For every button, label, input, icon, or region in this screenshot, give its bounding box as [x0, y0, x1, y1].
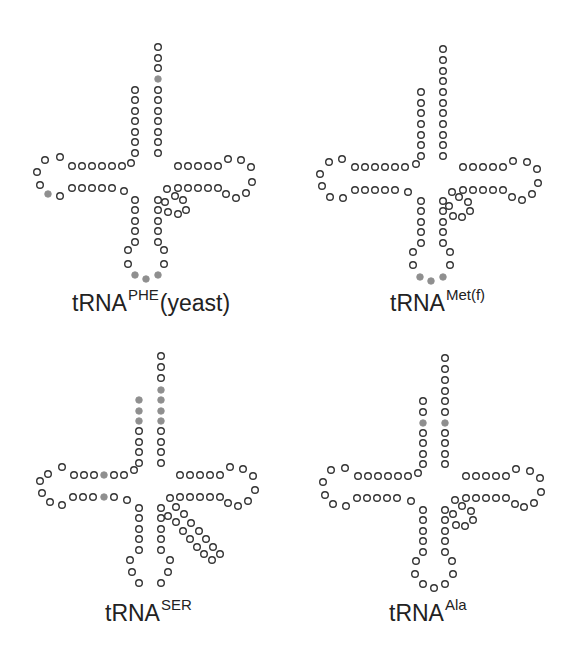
- nucleotide: [440, 198, 447, 205]
- nucleotide: [89, 185, 96, 192]
- nucleotide: [535, 180, 542, 187]
- nucleotide: [531, 500, 538, 507]
- nucleotide: [70, 494, 77, 501]
- trna-ala-structure: [320, 355, 545, 592]
- label-trna-phe: tRNAPHE(yeast): [72, 292, 230, 315]
- nucleotide: [420, 507, 427, 514]
- nucleotide: [326, 159, 333, 166]
- highlighted-nucleotide: [442, 420, 449, 427]
- nucleotide: [415, 470, 422, 477]
- nucleotide: [465, 199, 472, 206]
- nucleotide: [395, 473, 402, 480]
- nucleotide: [158, 364, 165, 371]
- nucleotide: [136, 515, 143, 522]
- nucleotide: [534, 166, 541, 173]
- nucleotide: [470, 517, 477, 524]
- nucleotide: [442, 451, 449, 458]
- nucleotide: [317, 171, 324, 178]
- nucleotide: [440, 110, 447, 117]
- highlighted-nucleotide: [132, 272, 139, 279]
- nucleotide: [412, 571, 419, 578]
- nucleotide: [440, 46, 447, 53]
- nucleotide: [470, 187, 477, 194]
- nucleotide: [175, 163, 182, 170]
- nucleotide: [59, 502, 66, 509]
- nucleotide: [158, 449, 165, 456]
- nucleotide: [158, 375, 165, 382]
- nucleotide: [405, 473, 412, 480]
- nucleotide: [155, 65, 162, 72]
- nucleotide: [136, 547, 143, 554]
- nucleotide: [155, 228, 162, 235]
- nucleotide: [418, 89, 425, 96]
- nucleotide: [418, 208, 425, 215]
- nucleotide: [470, 164, 477, 171]
- nucleotide: [121, 472, 128, 479]
- nucleotide: [442, 398, 449, 405]
- nucleotide: [480, 164, 487, 171]
- nucleotide: [382, 187, 389, 194]
- nucleotide: [473, 495, 480, 502]
- nucleotide: [165, 569, 172, 576]
- nucleotide: [155, 97, 162, 104]
- nucleotide: [132, 97, 139, 104]
- nucleotide: [132, 218, 139, 225]
- nucleotide: [405, 189, 412, 196]
- highlighted-nucleotide: [440, 274, 447, 281]
- nucleotide: [235, 503, 242, 510]
- nucleotide: [136, 536, 143, 543]
- highlighted-nucleotide: [45, 191, 52, 198]
- nucleotide: [384, 495, 391, 502]
- trna-phe-structure: [34, 44, 256, 283]
- nucleotide: [71, 472, 78, 479]
- nucleotide: [177, 494, 184, 501]
- label-superscript: PHE: [128, 286, 159, 303]
- nucleotide: [343, 503, 350, 510]
- nucleotide: [252, 487, 259, 494]
- nucleotide: [42, 157, 49, 164]
- nucleotide: [440, 78, 447, 85]
- nucleotide: [158, 505, 165, 512]
- highlighted-nucleotide: [155, 272, 162, 279]
- nucleotide: [136, 460, 143, 467]
- nucleotide: [509, 194, 516, 201]
- nucleotide: [155, 129, 162, 136]
- nucleotide: [158, 536, 165, 543]
- nucleotide: [418, 198, 425, 205]
- nucleotide: [372, 164, 379, 171]
- nucleotide: [408, 498, 415, 505]
- nucleotide: [394, 495, 401, 502]
- nucleotide: [207, 494, 214, 501]
- nucleotide: [132, 228, 139, 235]
- nucleotide: [365, 473, 372, 480]
- nucleotide: [418, 110, 425, 117]
- nucleotide: [225, 500, 232, 507]
- nucleotide: [490, 164, 497, 171]
- nucleotide: [460, 187, 467, 194]
- nucleotide: [442, 461, 449, 468]
- nucleotide: [410, 262, 417, 269]
- nucleotide: [374, 495, 381, 502]
- nucleotide: [79, 185, 86, 192]
- nucleotide: [450, 571, 457, 578]
- nucleotide: [249, 179, 256, 186]
- nucleotide: [418, 219, 425, 226]
- nucleotide: [354, 495, 361, 502]
- nucleotide: [175, 211, 182, 218]
- nucleotide: [537, 475, 544, 482]
- nucleotide: [352, 164, 359, 171]
- nucleotide: [440, 132, 447, 139]
- nucleotide: [69, 163, 76, 170]
- label-main: tRNA: [389, 600, 444, 626]
- nucleotide: [440, 68, 447, 75]
- nucleotide: [187, 472, 194, 479]
- nucleotide: [529, 191, 536, 198]
- nucleotide: [420, 549, 427, 556]
- nucleotide: [173, 519, 180, 526]
- nucleotide: [473, 473, 480, 480]
- nucleotide: [418, 100, 425, 107]
- nucleotide: [440, 142, 447, 149]
- nucleotide: [45, 471, 52, 478]
- nucleotide: [124, 497, 131, 504]
- nucleotide: [132, 207, 139, 214]
